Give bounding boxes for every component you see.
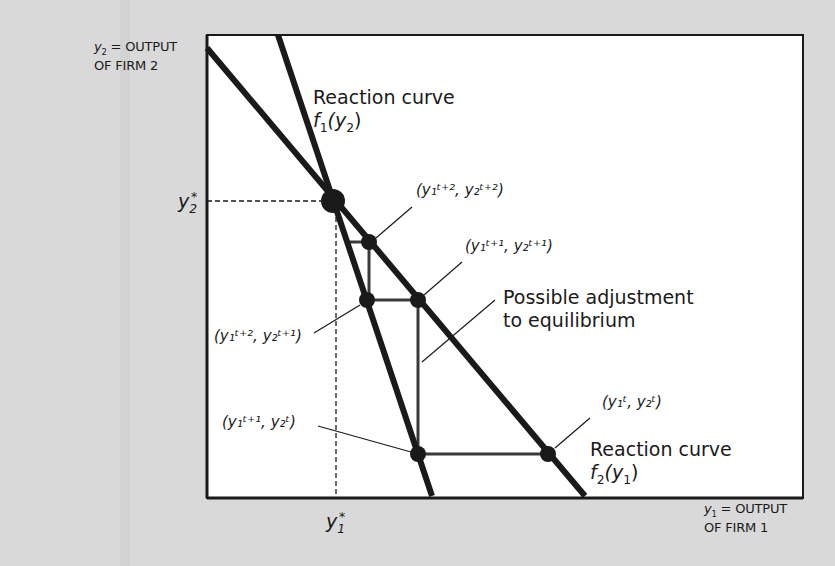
adjustment-annotation: Possible adjustment to equilibrium — [503, 286, 694, 332]
rc1-title: Reaction curve — [313, 86, 455, 109]
adjust-line1: Possible adjustment — [503, 286, 694, 309]
x-star-sup: * — [339, 510, 345, 524]
reaction-curve-f2-label: Reaction curve f2(y1) — [590, 438, 732, 492]
y-star-var: y — [178, 190, 189, 212]
rc2-title: Reaction curve — [590, 438, 732, 461]
y-star-label: y2* — [178, 186, 197, 221]
rc1-argsub: 2 — [346, 121, 354, 135]
label-point-t-t: (y₁ᵗ, y₂ᵗ) — [602, 393, 662, 411]
label-point-t2-t1: (y₁ᵗ⁺², y₂ᵗ⁺¹) — [214, 327, 302, 345]
y-axis-rest: = OUTPUT — [107, 39, 177, 54]
label-point-t2-t2: (y₁ᵗ⁺², y₂ᵗ⁺²) — [416, 181, 504, 199]
y-axis-line2: OF FIRM 2 — [94, 59, 177, 73]
rc1-arg: (y — [328, 109, 347, 131]
point-t1-t — [410, 446, 426, 462]
rc2-close: ) — [631, 461, 638, 483]
equilibrium-point — [321, 189, 345, 213]
rc1-close: ) — [354, 109, 361, 131]
x-star-sub: 1 — [337, 522, 345, 536]
y-star-sub: 2 — [189, 202, 197, 216]
label-point-t1-t: (y₁ᵗ⁺¹, y₂ᵗ) — [222, 413, 296, 431]
rc2-arg: (y — [605, 461, 624, 483]
rc2-f: f — [590, 461, 597, 483]
adjust-line2: to equilibrium — [503, 309, 694, 332]
y-star-sup: * — [191, 190, 197, 204]
y-axis-var: y — [94, 39, 102, 54]
x-axis-line2: OF FIRM 1 — [704, 521, 787, 535]
point-t2-t2 — [361, 234, 377, 250]
x-axis-label: y1 = OUTPUT OF FIRM 1 — [704, 502, 787, 535]
x-star-label: y1* — [326, 506, 345, 541]
point-t2-t1 — [359, 292, 375, 308]
point-t-t — [540, 446, 556, 462]
y-axis-label: y2 = OUTPUT OF FIRM 2 — [94, 40, 177, 73]
point-t1-t1 — [410, 292, 426, 308]
rc2-argsub: 1 — [623, 473, 631, 487]
plot-area — [207, 35, 803, 498]
x-axis-var: y — [704, 501, 712, 516]
reaction-curve-f1-label: Reaction curve f1(y2) — [313, 86, 455, 140]
rc1-f: f — [313, 109, 320, 131]
rc2-fsub: 2 — [597, 473, 605, 487]
rc1-fsub: 1 — [320, 121, 328, 135]
x-axis-rest: = OUTPUT — [717, 501, 787, 516]
label-point-t1-t1: (y₁ᵗ⁺¹, y₂ᵗ⁺¹) — [465, 237, 553, 255]
x-star-var: y — [326, 510, 337, 532]
